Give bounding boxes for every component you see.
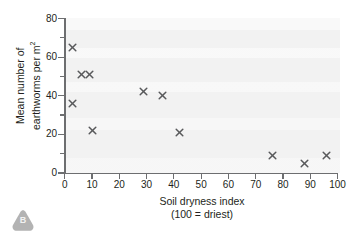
y-axis-title-superscript: 2 — [29, 42, 36, 46]
x-axis-tick-label: 30 — [134, 180, 160, 190]
y-axis-tick-minor — [60, 114, 65, 115]
section-badge: B — [11, 209, 35, 232]
y-axis-title: Mean number of earthworms per m2 — [14, 6, 42, 166]
x-axis-tick-label: 0 — [52, 180, 78, 190]
y-axis-tick-major — [58, 134, 65, 135]
x-axis-tick-label: 50 — [188, 180, 214, 190]
y-axis-tick-minor — [60, 76, 65, 77]
y-axis-tick-major — [58, 18, 65, 19]
badge-letter: B — [11, 216, 35, 225]
x-axis-title: Soil dryness index (100 = driest) — [64, 195, 340, 221]
scatter-chart-figure: 020406080 0102030405060708090100 Mean nu… — [0, 0, 354, 239]
y-axis-tick-minor — [60, 37, 65, 38]
x-axis-tick-label: 70 — [243, 180, 269, 190]
y-axis-tick-minor — [60, 153, 65, 154]
x-axis-title-sub: (100 = driest) — [171, 208, 233, 220]
x-axis-tick-label: 40 — [161, 180, 187, 190]
x-axis-tick-label: 80 — [270, 180, 296, 190]
y-axis-title-line2: earthworms per m — [29, 45, 41, 130]
y-axis-tick-label: 0 — [17, 168, 57, 178]
y-axis-tick-major — [58, 57, 65, 58]
x-axis-tick-label: 10 — [79, 180, 105, 190]
plot-area-background — [65, 18, 340, 173]
y-axis-tick-major — [58, 95, 65, 96]
x-axis-tick-label: 100 — [325, 180, 351, 190]
x-axis-tick-label: 20 — [106, 180, 132, 190]
x-axis-tick-label: 60 — [215, 180, 241, 190]
x-axis-tick-label: 90 — [297, 180, 323, 190]
y-axis-title-line1: Mean number of — [14, 48, 26, 124]
x-axis-title-main: Soil dryness index — [159, 195, 244, 207]
